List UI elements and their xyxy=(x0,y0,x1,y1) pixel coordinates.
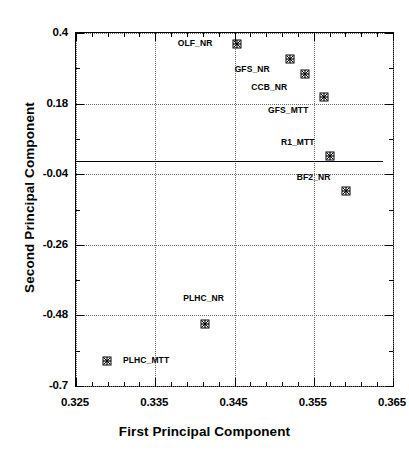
x-axis-minor-tick xyxy=(124,382,125,386)
x-axis-minor-tick xyxy=(219,33,220,37)
x-axis-tick xyxy=(76,378,77,386)
x-axis-tick xyxy=(235,378,236,386)
x-axis-minor-tick xyxy=(219,382,220,386)
y-axis-tick xyxy=(385,386,393,387)
y-axis-tick xyxy=(76,33,84,34)
data-point-label: PLHC_NR xyxy=(183,293,224,303)
y-axis-tick xyxy=(76,386,84,387)
x-axis-minor-tick xyxy=(139,33,140,37)
x-gridline xyxy=(314,33,315,386)
y-tick-label: 0.18 xyxy=(20,97,68,109)
y-gridline xyxy=(76,315,393,316)
x-tick-label: 0.335 xyxy=(140,396,168,408)
x-axis-minor-tick xyxy=(345,33,346,37)
data-point-label: BF2_NR xyxy=(297,172,331,182)
x-axis-minor-tick xyxy=(377,382,378,386)
x-axis-minor-tick xyxy=(124,33,125,37)
y-tick-label: -0.26 xyxy=(20,238,68,250)
x-axis-minor-tick xyxy=(330,33,331,37)
x-axis-tick xyxy=(314,33,315,41)
x-axis-minor-tick xyxy=(108,382,109,386)
y-gridline xyxy=(76,245,393,246)
y-axis-tick xyxy=(76,315,84,316)
x-axis-tick xyxy=(314,378,315,386)
x-axis-minor-tick xyxy=(108,33,109,37)
y-gridline xyxy=(76,386,393,387)
x-axis-minor-tick xyxy=(298,33,299,37)
x-gridline xyxy=(155,33,156,386)
y-axis-tick xyxy=(385,315,393,316)
x-axis-minor-tick xyxy=(250,382,251,386)
y-axis-tick xyxy=(76,104,84,105)
data-point-marker[interactable] xyxy=(200,319,207,326)
x-axis-minor-tick xyxy=(330,382,331,386)
x-axis-minor-tick xyxy=(266,382,267,386)
y-tick-label: -0.04 xyxy=(20,167,68,179)
y-axis-tick xyxy=(385,174,393,175)
x-axis-minor-tick xyxy=(361,33,362,37)
data-point-label: PLHC_MTT xyxy=(123,355,169,365)
data-point-marker[interactable] xyxy=(301,70,308,77)
data-point-label: R1_MTT xyxy=(281,137,315,147)
x-axis-minor-tick xyxy=(92,33,93,37)
data-point-label: GFS_MTT xyxy=(268,105,308,115)
x-axis-minor-tick xyxy=(377,33,378,37)
plot-area: OLF_NRGFS_NRCCB_NRGFS_MTTR1_MTTBF2_NRPLH… xyxy=(75,32,394,387)
x-tick-label: 0.365 xyxy=(378,396,406,408)
x-axis-minor-tick xyxy=(361,382,362,386)
data-point-marker[interactable] xyxy=(320,93,327,100)
x-axis-minor-tick xyxy=(345,382,346,386)
y-tick-label: -0.48 xyxy=(20,308,68,320)
y-tick-label: 0.4 xyxy=(20,26,68,38)
x-gridline xyxy=(235,33,236,386)
y-axis-tick xyxy=(76,174,84,175)
reference-line xyxy=(76,161,383,162)
x-tick-label: 0.355 xyxy=(299,396,327,408)
y-gridline xyxy=(76,174,393,175)
data-point-label: GFS_NR xyxy=(235,64,270,74)
data-point-marker[interactable] xyxy=(233,39,240,46)
y-axis-minor-tick xyxy=(389,351,393,352)
data-point-marker[interactable] xyxy=(341,186,348,193)
x-axis-minor-tick xyxy=(171,33,172,37)
data-point-marker[interactable] xyxy=(103,356,110,363)
x-axis-tick xyxy=(393,378,394,386)
x-axis-minor-tick xyxy=(298,382,299,386)
y-axis-minor-tick xyxy=(389,210,393,211)
y-axis-minor-tick xyxy=(389,139,393,140)
data-point-label: OLF_NR xyxy=(178,38,213,48)
y-axis-minor-tick xyxy=(76,68,80,69)
y-axis-minor-tick xyxy=(389,280,393,281)
y-axis-minor-tick xyxy=(76,139,80,140)
y-axis-minor-tick xyxy=(76,280,80,281)
y-tick-label: -0.7 xyxy=(20,379,68,391)
y-axis-minor-tick xyxy=(389,68,393,69)
y-axis-tick xyxy=(385,33,393,34)
y-axis-minor-tick xyxy=(76,210,80,211)
y-axis-tick xyxy=(76,245,84,246)
x-tick-label: 0.345 xyxy=(220,396,248,408)
x-axis-tick xyxy=(155,378,156,386)
y-axis-minor-tick xyxy=(76,351,80,352)
x-axis-tick xyxy=(393,33,394,41)
x-axis-minor-tick xyxy=(187,382,188,386)
y-axis-tick xyxy=(385,104,393,105)
x-axis-minor-tick xyxy=(139,382,140,386)
x-gridline xyxy=(393,33,394,386)
x-axis-minor-tick xyxy=(250,33,251,37)
x-axis-minor-tick xyxy=(203,33,204,37)
x-tick-label: 0.325 xyxy=(61,396,89,408)
x-axis-tick xyxy=(155,33,156,41)
y-axis-tick xyxy=(385,245,393,246)
x-axis-minor-tick xyxy=(266,33,267,37)
scatter-plot-figure: Second Principal Component First Princip… xyxy=(0,0,409,450)
x-axis-minor-tick xyxy=(282,382,283,386)
data-point-marker[interactable] xyxy=(325,151,332,158)
x-axis-minor-tick xyxy=(187,33,188,37)
y-gridline xyxy=(76,104,393,105)
x-axis-title: First Principal Component xyxy=(0,424,409,439)
data-point-marker[interactable] xyxy=(286,55,293,62)
x-axis-minor-tick xyxy=(282,33,283,37)
x-axis-minor-tick xyxy=(92,382,93,386)
x-axis-tick xyxy=(76,33,77,41)
